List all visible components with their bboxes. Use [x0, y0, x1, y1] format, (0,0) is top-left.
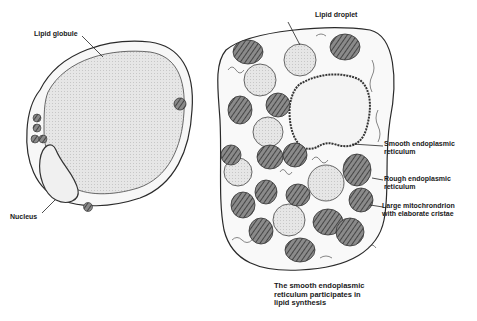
figure-caption: The smooth endoplasmic reticulum partici…	[274, 282, 394, 308]
label-lipid-droplet: Lipid droplet	[315, 11, 357, 19]
label-lipid-globule: Lipid globule	[34, 30, 78, 38]
lipid-droplet-large	[290, 74, 370, 148]
label-rough-er: Rough endoplasmic reticulum	[384, 175, 451, 191]
label-mitochondrion: Large mitochrondrion with elaborate cris…	[382, 202, 455, 218]
steroid-cell	[218, 22, 394, 270]
label-smooth-er: Smooth endoplasmic reticulum	[384, 140, 455, 156]
cell-diagram	[0, 0, 477, 321]
label-nucleus: Nucleus	[10, 213, 37, 221]
adipocyte-cell	[27, 36, 193, 213]
lipid-droplet	[284, 44, 316, 76]
